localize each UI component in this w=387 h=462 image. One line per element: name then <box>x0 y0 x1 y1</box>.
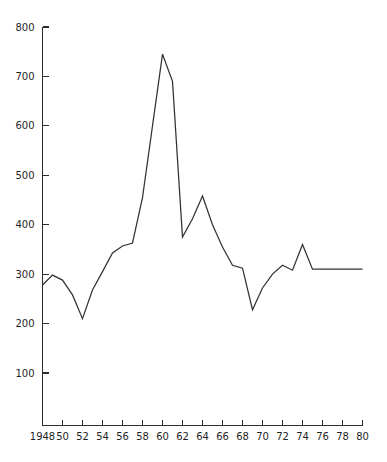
y-tick-label: 500 <box>15 170 34 181</box>
y-tick-label: 700 <box>15 71 34 82</box>
x-tick-label: 52 <box>76 431 89 442</box>
x-tick-label: 76 <box>316 431 329 442</box>
data-line-1 <box>43 54 363 318</box>
data-series-group <box>43 54 363 318</box>
x-tick-label: 72 <box>276 431 289 442</box>
x-tick-label: 74 <box>296 431 309 442</box>
x-tick-label: 1948 <box>30 431 55 442</box>
y-tick-label: 100 <box>15 368 34 379</box>
x-tick-label: 68 <box>236 431 249 442</box>
plot-area: 100200300400500600700800 194850525456586… <box>0 0 387 462</box>
x-tick-label: 70 <box>256 431 269 442</box>
x-tick-label: 54 <box>96 431 109 442</box>
y-tick-label: 800 <box>15 22 34 33</box>
y-tick-group <box>43 27 49 373</box>
x-tick-label: 56 <box>116 431 129 442</box>
x-tick-group <box>43 420 363 426</box>
x-axis <box>43 420 364 426</box>
x-tick-label-group: 194850525456586062646668707274767880 <box>30 431 369 442</box>
y-axis <box>43 27 49 425</box>
x-tick-label: 58 <box>136 431 149 442</box>
x-tick-label: 80 <box>356 431 369 442</box>
x-tick-label: 60 <box>156 431 169 442</box>
x-tick-label: 64 <box>196 431 209 442</box>
y-tick-label: 200 <box>15 318 34 329</box>
x-tick-label: 78 <box>336 431 349 442</box>
x-tick-label: 66 <box>216 431 229 442</box>
y-tick-label-group: 100200300400500600700800 <box>15 22 34 379</box>
x-tick-label: 62 <box>176 431 189 442</box>
x-tick-label: 50 <box>56 431 69 442</box>
line-chart: 100200300400500600700800 194850525456586… <box>0 0 387 462</box>
y-tick-label: 600 <box>15 120 34 131</box>
y-tick-label: 300 <box>15 269 34 280</box>
y-tick-label: 400 <box>15 219 34 230</box>
